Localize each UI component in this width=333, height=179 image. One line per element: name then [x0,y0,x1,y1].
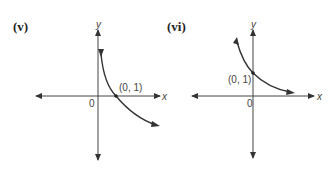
y-axis-label: y [250,19,257,30]
point-marker [251,71,255,75]
x-axis-label: x [161,91,168,102]
curve-arrow-up [233,37,239,45]
figure-panel: (v) (0, 1) 0 y x (vi) (0, 1) 0 y x [0,0,333,179]
x-axis-label: x [316,91,323,102]
origin-label: 0 [247,98,253,109]
point-label: (0, 1) [228,74,251,85]
y-axis-label: y [95,19,102,30]
point-label: (0, 1) [119,82,142,93]
point-marker [114,94,118,98]
curve-arrow-right [151,121,160,127]
graph-label: (v) [13,19,28,34]
graphs-svg: (v) (0, 1) 0 y x (vi) (0, 1) 0 y x [0,0,333,179]
graph-v: (v) (0, 1) 0 y x [13,19,168,160]
curve-arrow-right [286,89,295,95]
graph-label: (vi) [167,19,186,34]
origin-label: 0 [89,98,95,109]
graph-vi: (vi) (0, 1) 0 y x [167,19,323,158]
curve-arrow-up [98,49,104,57]
